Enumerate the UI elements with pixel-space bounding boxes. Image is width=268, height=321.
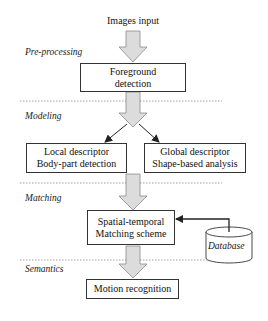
input-label: Images input <box>104 15 162 26</box>
block-arrow-matching <box>119 174 147 210</box>
node-motion-line1: Motion recognition <box>94 283 172 295</box>
node-foreground-line1: Foreground <box>110 66 157 78</box>
block-arrow-modeling <box>119 92 147 127</box>
node-foreground-detection: Foreground detection <box>80 63 186 92</box>
stage-label-matching: Matching <box>25 193 61 203</box>
node-global-descriptor: Global descriptor Shape-based analysis <box>144 143 246 173</box>
node-global-line1: Global descriptor <box>160 146 230 158</box>
stage-label-preprocessing: Pre-processing <box>25 47 82 57</box>
node-motion-recognition: Motion recognition <box>86 279 179 299</box>
node-matching-line2: Matching scheme <box>96 228 167 240</box>
node-matching-scheme: Spatial-temporal Matching scheme <box>87 210 175 245</box>
arrow-to-global <box>139 124 159 142</box>
node-local-line1: Local descriptor <box>44 146 109 158</box>
node-local-descriptor: Local descriptor Body-part detection <box>26 143 127 173</box>
node-global-line2: Shape-based analysis <box>152 158 237 170</box>
node-matching-line1: Spatial-temporal <box>98 216 165 228</box>
database-label: Database <box>208 241 244 251</box>
block-arrow-semantics <box>119 246 147 278</box>
stage-label-semantics: Semantics <box>25 264 64 274</box>
arrow-to-local <box>105 124 127 142</box>
node-local-line2: Body-part detection <box>37 158 117 170</box>
block-arrow-input <box>119 31 147 62</box>
stage-label-modeling: Modeling <box>25 111 61 121</box>
node-foreground-line2: detection <box>115 78 152 90</box>
